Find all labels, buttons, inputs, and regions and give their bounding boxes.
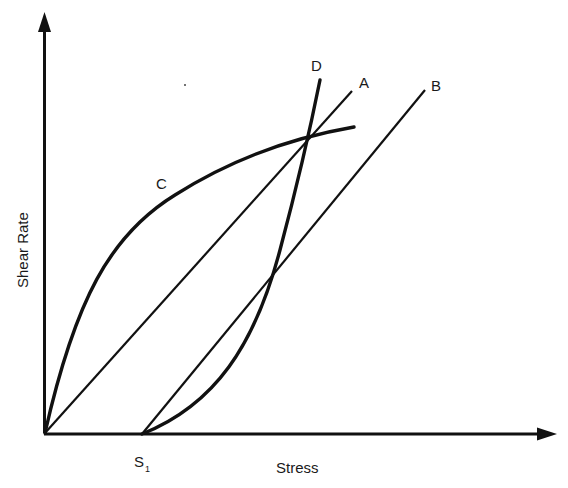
print-speck <box>184 84 186 86</box>
y-axis <box>38 12 51 433</box>
curve-a-label: A <box>359 74 369 91</box>
x-axis <box>44 428 557 441</box>
curve-d <box>142 80 320 434</box>
y-axis-arrowhead-icon <box>38 12 51 32</box>
rheology-diagram: D A B C S 1 Stress Shear Rate <box>0 0 568 488</box>
curve-d-label: D <box>311 57 322 74</box>
y-axis-label: Shear Rate <box>14 212 31 288</box>
s1-label: S <box>134 453 144 470</box>
curve-b-label: B <box>431 77 441 94</box>
x-axis-label: Stress <box>276 459 319 476</box>
curve-c-label: C <box>156 175 167 192</box>
curve-c <box>45 127 354 433</box>
curve-b <box>142 90 425 434</box>
s1-subscript: 1 <box>145 464 150 474</box>
x-axis-arrowhead-icon <box>537 428 557 441</box>
